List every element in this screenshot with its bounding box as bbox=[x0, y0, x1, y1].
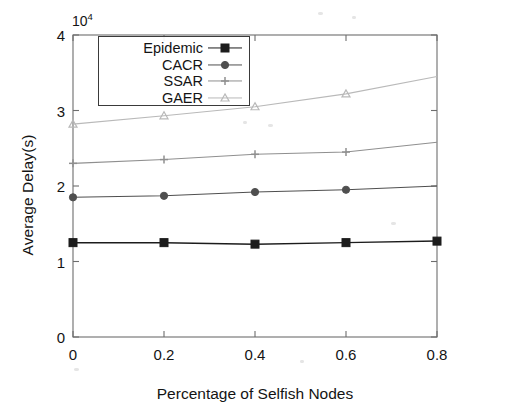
legend-label: GAER bbox=[162, 90, 203, 106]
data-series-ssar bbox=[69, 142, 437, 167]
legend-item-cacr[interactable]: CACR bbox=[99, 57, 249, 74]
legend-label: SSAR bbox=[164, 73, 204, 89]
data-series-cacr bbox=[69, 186, 437, 201]
chart-legend[interactable]: EpidemicCACRSSARGAER bbox=[98, 36, 250, 106]
data-series-epidemic bbox=[69, 237, 441, 248]
legend-marker-cross-icon bbox=[208, 75, 242, 87]
legend-label: Epidemic bbox=[143, 40, 203, 56]
legend-item-gaer[interactable]: GAER bbox=[99, 90, 249, 107]
legend-item-ssar[interactable]: SSAR bbox=[99, 73, 249, 90]
legend-item-epidemic[interactable]: Epidemic bbox=[99, 40, 249, 57]
legend-label: CACR bbox=[162, 57, 203, 73]
plot-area bbox=[0, 0, 510, 418]
legend-marker-triangle-icon bbox=[208, 92, 242, 104]
legend-marker-square-icon bbox=[208, 42, 242, 54]
legend-marker-circle-icon bbox=[208, 59, 242, 71]
chart-figure: 104 Average Delay(s) Percentage of Selfi… bbox=[0, 0, 510, 418]
